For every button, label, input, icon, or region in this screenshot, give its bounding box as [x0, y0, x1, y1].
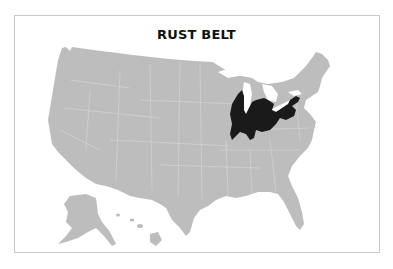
hawaii-inset	[116, 214, 162, 247]
alaska-inset	[58, 194, 116, 246]
us-map	[0, 0, 393, 269]
